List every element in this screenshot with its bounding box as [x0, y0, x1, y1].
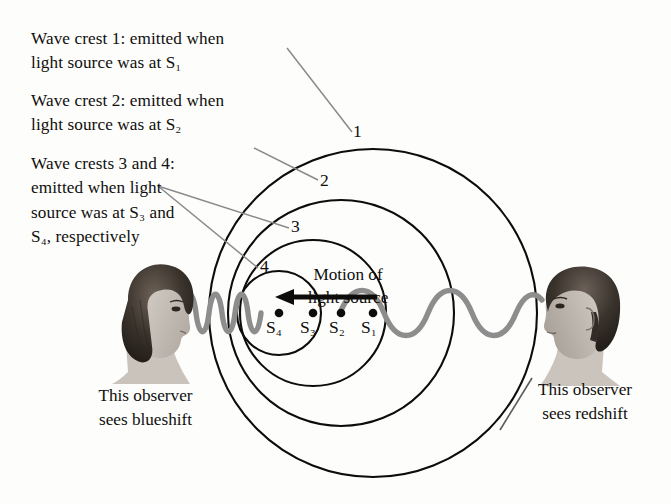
- crest-label-2: 2: [320, 170, 329, 191]
- observer-right-caption: This observer sees redshift: [505, 378, 665, 427]
- observer-left-portrait: [112, 264, 194, 384]
- crest-label-1: 1: [353, 121, 362, 142]
- callout-wave-crest-1: Wave crest 1: emitted when light source …: [31, 27, 306, 76]
- woman-hair-strands: [132, 300, 151, 358]
- crest-label-3: 3: [291, 216, 300, 237]
- blueshift-wave: [183, 294, 261, 332]
- man-ear: [586, 308, 594, 330]
- crest-label-4: 4: [260, 256, 269, 277]
- man-eye: [555, 304, 564, 309]
- doppler-effect-figure: Wave crest 1: emitted when light source …: [0, 0, 671, 504]
- man-brow: [553, 298, 567, 300]
- callout-wave-crests-3-and-4: Wave crests 3 and 4: emitted when light …: [31, 152, 271, 250]
- man-sideburn: [590, 312, 599, 342]
- observer-left-caption: This observer sees blueshift: [58, 384, 233, 433]
- source-dot-4: [275, 309, 284, 318]
- man-face: [544, 276, 603, 359]
- motion-of-light-source-label: Motion of light source: [287, 263, 409, 309]
- source-position-label-1: S₁: [361, 317, 377, 338]
- woman-eye: [172, 307, 181, 312]
- man-lips: [547, 332, 556, 333]
- observer-right-portrait: [540, 267, 620, 386]
- source-position-label-4: S₄: [266, 317, 282, 338]
- woman-hair: [122, 264, 194, 362]
- source-dot-1: [369, 309, 378, 318]
- callout-wave-crest-2: Wave crest 2: emitted when light source …: [31, 89, 306, 138]
- source-dot-3: [309, 309, 318, 318]
- source-position-label-2: S₂: [329, 317, 345, 338]
- source-dot-2: [337, 309, 346, 318]
- source-position-label-3: S₃: [300, 317, 316, 338]
- man-hair: [546, 267, 620, 352]
- woman-face: [134, 279, 190, 358]
- woman-brow: [170, 301, 183, 303]
- woman-lips: [180, 331, 186, 334]
- woman-neck-shoulders: [112, 340, 190, 384]
- source-position-dots: [275, 309, 378, 318]
